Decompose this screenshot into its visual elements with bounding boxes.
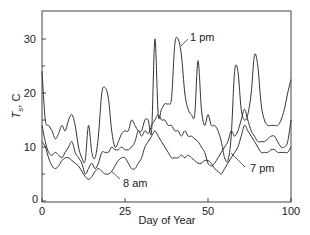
svg-text:Ts, C: Ts, C xyxy=(10,94,25,119)
x-tick-label: 50 xyxy=(202,205,214,217)
y-axis-label: Ts, C xyxy=(10,94,25,119)
leader-line-8am xyxy=(111,171,120,179)
y-axis: 0102030 xyxy=(24,33,46,205)
line-chart: 0102030 02550100 1 pm 8 am 7 pm Day of Y… xyxy=(0,0,310,235)
annotation-label-1pm: 1 pm xyxy=(190,31,214,43)
annotation-label-7pm: 7 pm xyxy=(250,162,274,174)
y-tick-label: 0 xyxy=(32,193,38,205)
leader-line-1pm xyxy=(181,39,188,46)
x-tick-label: 25 xyxy=(119,205,131,217)
y-tick-label: 20 xyxy=(24,87,36,99)
x-axis-label: Day of Year xyxy=(139,214,196,226)
annotation-7pm: 7 pm xyxy=(231,153,274,174)
series-line-1pm xyxy=(42,37,291,162)
x-tick-label: 0 xyxy=(39,205,45,217)
y-tick-label: 10 xyxy=(24,141,36,153)
x-tick-label: 100 xyxy=(282,205,300,217)
leader-line-7pm xyxy=(231,153,245,167)
annotation-1pm: 1 pm xyxy=(181,31,214,46)
series-lines xyxy=(42,37,291,179)
y-tick-label: 30 xyxy=(24,33,36,45)
annotation-8am: 8 am xyxy=(111,171,147,189)
chart-svg: 0102030 02550100 1 pm 8 am 7 pm Day of Y… xyxy=(0,0,310,235)
y-label-unit: , C xyxy=(10,94,22,108)
annotation-label-8am: 8 am xyxy=(123,177,147,189)
